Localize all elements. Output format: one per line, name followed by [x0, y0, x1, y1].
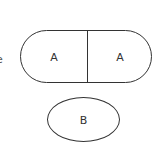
ellipse-shape: B — [47, 97, 120, 142]
stadium-divider — [87, 31, 88, 82]
stadium-right-label: A — [116, 50, 124, 63]
cut-off-text-fragment: e — [0, 53, 3, 66]
stadium-left-label: A — [50, 50, 58, 63]
ellipse-label: B — [80, 113, 88, 126]
split-stadium-shape: A A — [20, 30, 152, 83]
